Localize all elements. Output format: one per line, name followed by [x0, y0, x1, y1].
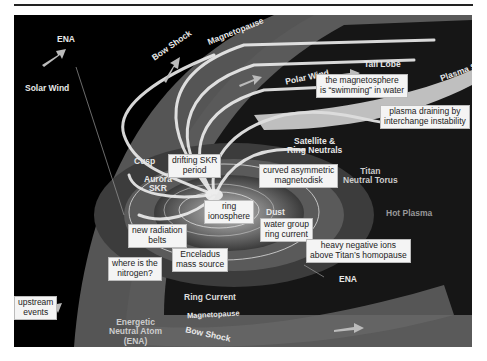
- callout-upstream-line2: events: [18, 308, 53, 318]
- label-aurora-skr: Aurora SKR: [144, 175, 172, 194]
- callout-swimming-line2: is “swimming” in water: [320, 86, 404, 96]
- callout-plasma-draining: plasma draining by interchange instabili…: [380, 105, 470, 129]
- callout-water-group: water group ring current: [260, 218, 313, 242]
- callout-water-line2: ring current: [264, 230, 309, 240]
- label-cusp: Cusp: [134, 157, 155, 166]
- callout-swimming: the magnetosphere is “swimming” in water: [316, 74, 408, 98]
- callout-enceladus-line2: mass source: [176, 260, 224, 270]
- callout-enceladus: Enceladus mass source: [172, 248, 228, 272]
- callout-nitrogen-line2: nitrogen?: [112, 269, 158, 279]
- label-titan-torus: Titan Neutral Torus: [343, 167, 398, 186]
- label-ena-line3: (ENA): [109, 337, 162, 346]
- callout-radiation-line2: belts: [132, 236, 183, 246]
- callout-magnetodisk: curved asymmetric magnetodisk: [259, 164, 338, 188]
- callout-nitrogen: where is the nitrogen?: [108, 257, 162, 281]
- label-dust: Dust: [266, 208, 285, 217]
- label-satellite-ring-neutrals: Satellite & Ring Neutrals: [287, 137, 342, 156]
- callout-skr-line2: period: [172, 166, 217, 176]
- callout-radiation-belts: new radiation belts: [128, 224, 187, 248]
- top-rule: [14, 4, 473, 6]
- callout-skr-period: drifting SKR period: [168, 154, 221, 178]
- callout-upstream-events: upstream events: [14, 296, 57, 320]
- label-ena-bottom: ENA: [339, 275, 357, 284]
- label-tail-lobe: Tail Lobe: [364, 60, 401, 69]
- callout-negative-ions: heavy negative ions above Titan’s homopa…: [306, 239, 411, 263]
- label-ena-top: ENA: [57, 35, 75, 44]
- label-aurora-line2: SKR: [144, 184, 172, 193]
- label-hot-plasma: Hot Plasma: [386, 209, 432, 218]
- label-titan-line2: Neutral Torus: [343, 176, 398, 185]
- diagram-artwork: [14, 15, 472, 347]
- callout-ions-line2: above Titan’s homopause: [310, 251, 407, 261]
- label-satellite-line2: Ring Neutrals: [287, 146, 342, 155]
- label-solar-wind: Solar Wind: [25, 84, 69, 93]
- magnetosphere-diagram: ENA Solar Wind Bow Shock Magnetopause Ta…: [14, 15, 472, 347]
- callout-draining-line2: interchange instability: [384, 117, 466, 127]
- callout-ring-line2: ionosphere: [208, 212, 250, 222]
- callout-ring-ionosphere: ring ionosphere: [204, 200, 254, 224]
- callout-magnetodisk-line2: magnetodisk: [263, 176, 334, 186]
- label-ring-current: Ring Current: [184, 293, 236, 302]
- label-energetic-neutral-atom: Energetic Neutral Atom (ENA): [109, 318, 162, 346]
